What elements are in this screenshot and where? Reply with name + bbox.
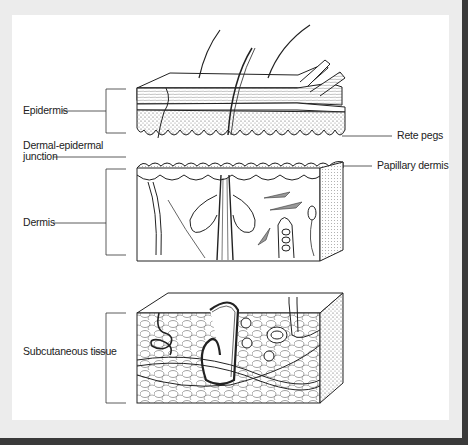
- label-subcutaneous-tissue: Subcutaneous tissue: [23, 346, 117, 357]
- label-rete-pegs: Rete pegs: [397, 130, 443, 141]
- label-papillary-dermis: Papillary dermis: [377, 160, 449, 171]
- dermis-bracket: [106, 169, 126, 255]
- label-epidermis: Epidermis: [23, 105, 68, 116]
- label-dermis: Dermis: [23, 217, 55, 228]
- label-junction-line2: junction: [23, 151, 58, 162]
- epidermis-bracket: [106, 89, 126, 133]
- subcutaneous-block: [137, 293, 343, 403]
- skin-layers-illustration: [0, 0, 468, 445]
- dermis-block: [137, 162, 343, 262]
- subcutaneous-bracket: [106, 313, 126, 403]
- epidermis-block: [137, 25, 345, 138]
